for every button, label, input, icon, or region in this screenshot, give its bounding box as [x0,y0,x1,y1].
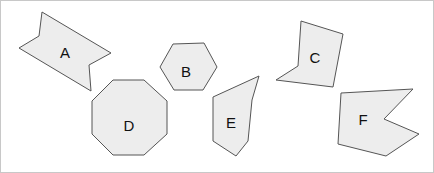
shape-label-d: D [124,117,135,134]
shape-label-b: B [181,63,191,80]
shape-f-arrow[interactable] [338,89,419,156]
shape-label-c: C [310,49,321,66]
shape-label-a: A [60,44,70,61]
shape-figure-canvas: A B C D E F [0,0,434,173]
shape-label-e: E [226,114,236,131]
shape-label-f: F [358,111,367,128]
shapes-svg: A B C D E F [1,1,434,173]
